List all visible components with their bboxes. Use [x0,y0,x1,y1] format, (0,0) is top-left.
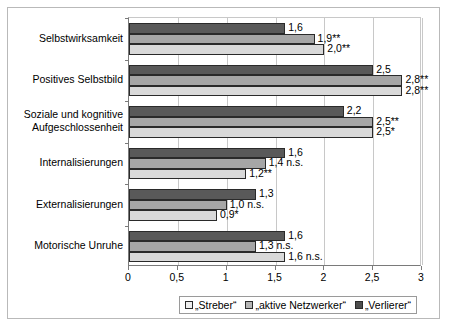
bar [129,65,373,76]
category-tick [125,60,129,61]
bar-value-label: 2,5 [376,64,391,75]
x-axis-tick-label: 2 [320,271,326,283]
legend-item[interactable]: „aktive Netzwerker“ [245,299,345,311]
legend-swatch-icon [245,301,253,309]
category-tick [125,226,129,227]
x-axis-tick [275,266,276,270]
x-axis-tick [372,266,373,270]
x-axis-tick-label: 1 [223,271,229,283]
x-axis-tick [323,266,324,270]
bar-value-label: 0,9* [220,209,239,220]
x-axis-tick-label: 1,5 [267,271,282,283]
category-tick [125,101,129,102]
bar-value-label: 1,4 n.s. [269,157,303,168]
gridline [324,18,325,265]
legend-item[interactable]: „Verlierer“ [355,299,411,311]
x-axis-tick-label: 2,5 [365,271,380,283]
gridline [373,18,374,265]
x-axis-tick-label: 0 [125,271,131,283]
category-label: Selbstwirksamkeit [39,32,123,45]
bar [129,117,373,128]
bar [129,252,285,263]
legend-swatch-icon [355,301,363,309]
category-label: Externalisierungen [36,198,123,211]
bar [129,148,285,159]
category-tick [125,18,129,19]
category-label: Positives Selbstbild [33,73,123,86]
bar-value-label: 2,0** [327,43,350,54]
bar [129,34,315,45]
gridline [276,18,277,265]
x-axis-tick-label: 0,5 [170,271,185,283]
x-axis-tick [421,266,422,270]
plot-area: 1,61,9**2,0**2,52,8**2,8**2,22,5**2,5*1,… [128,17,421,266]
bar [129,75,402,86]
bar [129,200,227,211]
bar-value-label: 1,2** [249,168,272,179]
x-axis-tick [226,266,227,270]
bar [129,241,256,252]
category-tick [125,143,129,144]
gridline [227,18,228,265]
bar [129,169,246,180]
bar-value-label: 2,2 [347,105,362,116]
bar [129,127,373,138]
bar-value-label: 2,8** [405,85,428,96]
chart-legend: „Streber“„aktive Netzwerker“„Verlierer“ [179,296,417,314]
legend-label: „aktive Netzwerker“ [255,299,345,311]
gridline [422,18,423,265]
x-axis: 00,511,522,53 [128,266,422,286]
bar-value-label: 1,6 [288,22,303,33]
category-label: Internalisierungen [40,156,123,169]
chart-frame: SelbstwirksamkeitPositives SelbstbildSoz… [7,7,440,319]
bar [129,158,266,169]
category-tick [125,184,129,185]
legend-swatch-icon [185,301,193,309]
x-axis-tick [177,266,178,270]
category-axis-labels: SelbstwirksamkeitPositives SelbstbildSoz… [14,17,123,266]
x-axis-tick-label: 3 [418,271,424,283]
category-label: Motorische Unruhe [34,239,123,252]
x-axis-tick [128,266,129,270]
legend-label: „Streber“ [195,299,236,311]
bar [129,210,217,221]
gridline [178,18,179,265]
legend-label: „Verlierer“ [365,299,411,311]
bar [129,86,402,97]
legend-item[interactable]: „Streber“ [185,299,236,311]
bar [129,106,344,117]
bar [129,44,324,55]
bar [129,23,285,34]
bar-value-label: 2,5* [376,126,395,137]
bar-value-label: 1,6 n.s. [288,251,322,262]
category-label: Soziale und kognitive Aufgeschlossenheit [24,108,123,133]
